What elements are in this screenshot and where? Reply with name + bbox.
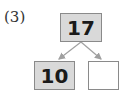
arrow-left (59, 42, 81, 59)
whole-box: 17 (60, 13, 102, 42)
arrow-right (81, 42, 101, 59)
whole-value: 17 (67, 16, 95, 40)
part-box-right-answer[interactable] (88, 61, 119, 90)
part-left-value: 10 (41, 64, 69, 88)
part-box-left: 10 (34, 61, 75, 90)
